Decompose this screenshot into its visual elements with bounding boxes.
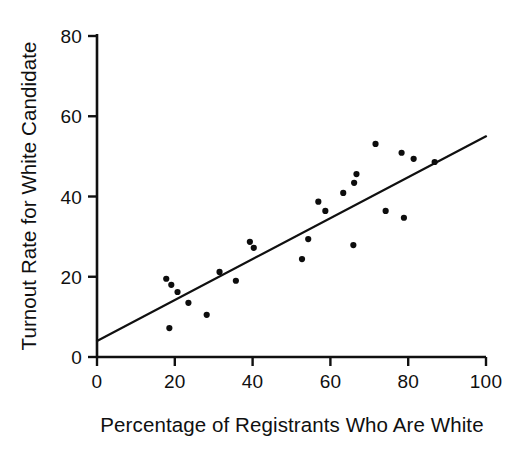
data-point: [233, 278, 239, 284]
data-point: [247, 239, 253, 245]
x-tick-label: 100: [470, 371, 502, 392]
y-tick-label: 60: [60, 106, 82, 127]
x-tick-label: 20: [164, 371, 186, 392]
x-axis-title: Percentage of Registrants Who Are White: [100, 413, 483, 436]
data-point: [340, 190, 346, 196]
scatter-chart: 020406080 020406080100 Percentage of Reg…: [0, 0, 518, 450]
data-point: [350, 242, 356, 248]
y-tick-label: 20: [60, 267, 82, 288]
data-point: [174, 289, 180, 295]
plot-area: 020406080 020406080100 Percentage of Reg…: [0, 0, 518, 450]
data-point: [401, 215, 407, 221]
data-point: [353, 171, 359, 177]
x-axis-tick-labels: 020406080100: [92, 371, 503, 392]
x-axis-ticks: [97, 357, 486, 366]
y-axis-tick-labels: 020406080: [60, 26, 82, 368]
y-tick-label: 80: [60, 26, 82, 47]
data-point: [383, 208, 389, 214]
data-point: [432, 159, 438, 165]
x-tick-label: 40: [242, 371, 264, 392]
data-point: [185, 300, 191, 306]
data-point: [305, 236, 311, 242]
data-point: [351, 180, 357, 186]
y-tick-label: 0: [71, 347, 82, 368]
y-axis-ticks: [88, 36, 97, 357]
data-point: [315, 199, 321, 205]
y-tick-label: 40: [60, 187, 82, 208]
data-point: [372, 141, 378, 147]
data-point: [216, 269, 222, 275]
data-point: [411, 156, 417, 162]
x-tick-label: 60: [320, 371, 342, 392]
data-point: [204, 312, 210, 318]
x-tick-label: 0: [92, 371, 103, 392]
data-point: [168, 282, 174, 288]
data-point: [166, 325, 172, 331]
data-point: [163, 276, 169, 282]
y-axis-title: Turnout Rate for White Candidate: [17, 42, 40, 351]
data-point: [299, 256, 305, 262]
data-point: [322, 208, 328, 214]
data-point: [398, 150, 404, 156]
x-tick-label: 80: [397, 371, 419, 392]
data-point-group: [163, 141, 438, 331]
regression-line: [97, 136, 486, 341]
data-point: [251, 245, 257, 251]
